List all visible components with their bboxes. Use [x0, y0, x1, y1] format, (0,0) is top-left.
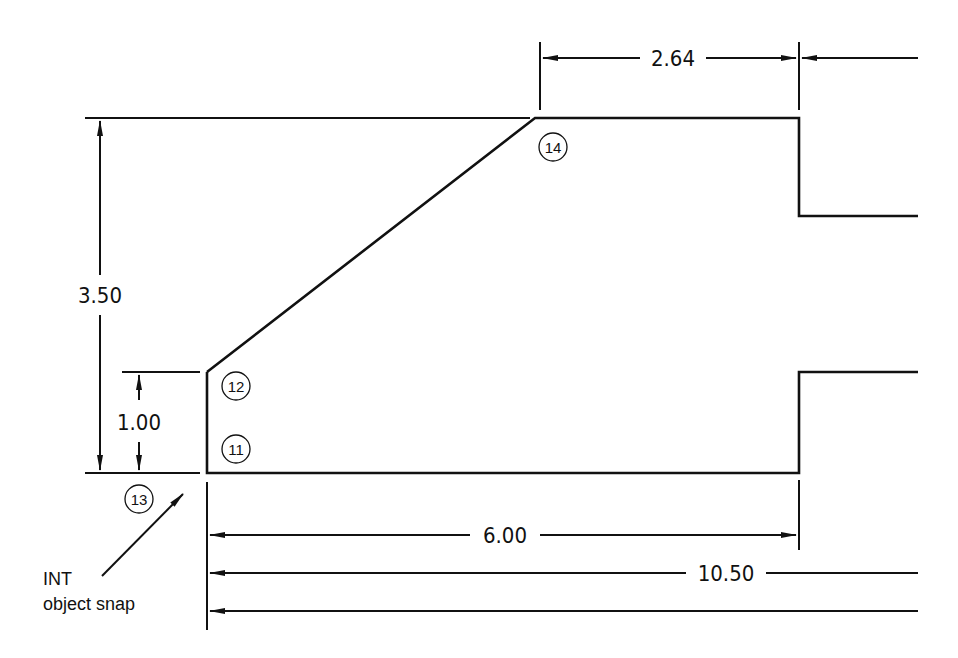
annotation-object-snap: object snap [43, 594, 135, 614]
dim-step-height: 1.00 [117, 410, 161, 435]
svg-text:11: 11 [228, 441, 244, 458]
extension-lines [85, 42, 799, 630]
svg-text:13: 13 [131, 491, 148, 508]
part-outline [207, 118, 918, 473]
technical-drawing: 2.64 3.50 1.00 6.00 10.50 11 12 13 14 IN… [0, 0, 958, 658]
dim-top-width: 2.64 [651, 46, 695, 71]
callout-12: 12 [222, 372, 250, 400]
callout-13: 13 [125, 485, 153, 513]
svg-text:12: 12 [228, 378, 245, 395]
annotation-int: INT [43, 569, 72, 589]
dim-overall-length: 10.50 [698, 561, 755, 586]
callout-11: 11 [222, 435, 250, 463]
svg-text:14: 14 [545, 139, 562, 156]
dim-overall-height: 3.50 [78, 283, 122, 308]
dim-base-length: 6.00 [483, 523, 527, 548]
callout-14: 14 [539, 133, 567, 161]
drawing-canvas: 2.64 3.50 1.00 6.00 10.50 11 12 13 14 IN… [0, 0, 958, 658]
